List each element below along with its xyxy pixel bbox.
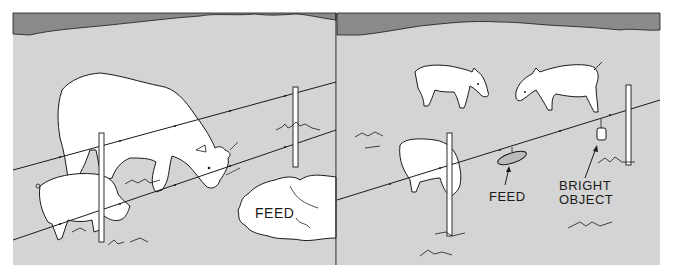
right-ground: [337, 13, 660, 265]
left-feed-label: FEED: [255, 206, 294, 220]
right-fence-post-1: [447, 133, 452, 236]
illustration: [0, 0, 673, 277]
bright-object-label-line2: OBJECT: [559, 193, 613, 207]
bright-object-label-line1: BRIGHT: [559, 179, 611, 193]
left-fence-post-2: [293, 87, 298, 167]
right-feed-label: FEED: [489, 190, 526, 204]
right-fence-post-2: [626, 85, 631, 165]
left-panel: [13, 13, 336, 265]
right-panel: [337, 13, 660, 265]
bright-object: [597, 128, 606, 140]
left-fence-post-1: [99, 133, 104, 242]
